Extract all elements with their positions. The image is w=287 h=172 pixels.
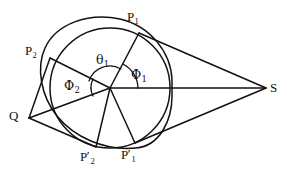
label-q: Q [9, 109, 18, 122]
ray-center-to-p1-prime [110, 88, 135, 143]
line-s-to-p1 [139, 33, 266, 88]
label-theta1: θ1 [96, 54, 109, 67]
angle-arc-phi2 [91, 79, 93, 96]
label-p1: P1 [127, 10, 138, 23]
label-p1-prime: P′1 [121, 148, 135, 161]
geometric-diagram: P1 P2 P′1 P′2 Q S θ1 Φ1 Φ2 [0, 0, 287, 172]
line-s-to-p1-prime [135, 88, 266, 143]
outer-oval-curve [41, 17, 172, 148]
label-phi2: Φ2 [64, 80, 80, 93]
line-q-to-p2 [29, 58, 50, 118]
center-vertex-dot [109, 87, 112, 90]
diagram-canvas [0, 0, 287, 172]
label-phi1: Φ1 [131, 69, 147, 82]
label-p2: P2 [25, 44, 36, 57]
label-p2-prime: P′2 [80, 150, 94, 163]
ray-center-to-p2-prime [96, 88, 110, 147]
label-s: S [270, 81, 277, 94]
